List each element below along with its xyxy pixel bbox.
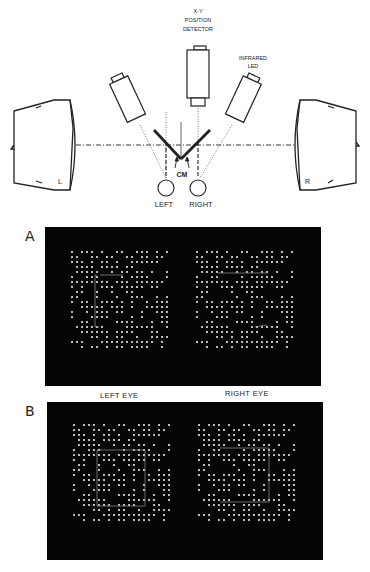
right-eye-icon — [190, 180, 206, 196]
panel-b-stereogram — [47, 402, 323, 560]
cold-mirror-icon — [154, 130, 210, 159]
apparatus-diagram: L R X-Y POSITION DETECTOR — [0, 0, 370, 210]
right-eye-label: RIGHT — [189, 200, 213, 209]
detector-label-1: X-Y — [193, 8, 203, 14]
left-eye-caption: LEFT EYE — [100, 391, 139, 400]
eyes — [158, 180, 206, 196]
panel-a-dots — [45, 227, 321, 386]
left-monitor-label: L — [58, 178, 62, 185]
left-monitor-icon — [11, 100, 75, 190]
detector-label-3: DETECTOR — [183, 26, 213, 32]
cm-label: CM — [177, 171, 188, 178]
led-label-2: LED — [248, 63, 259, 69]
apparatus-svg: L R X-Y POSITION DETECTOR — [0, 0, 370, 210]
panel-a-letter: A — [25, 228, 35, 244]
right-infrared-led-icon — [225, 71, 263, 122]
right-monitor-label: R — [305, 178, 310, 185]
left-eye-label: LEFT — [155, 200, 174, 209]
panel-a-stereogram — [45, 227, 321, 386]
right-eye-caption: RIGHT EYE — [225, 389, 269, 398]
position-detector-icon — [187, 46, 209, 106]
detector-label-2: POSITION — [185, 17, 211, 23]
left-led-icon — [108, 71, 146, 122]
panel-b-dots — [47, 402, 323, 560]
light-rays — [140, 106, 232, 178]
panel-b-letter: B — [25, 403, 35, 419]
led-label-1: INFRARED — [239, 55, 267, 61]
left-eye-icon — [158, 180, 174, 196]
right-monitor-icon — [295, 100, 359, 190]
